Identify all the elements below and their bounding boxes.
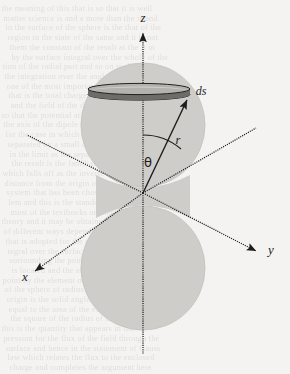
z-axis-label: z [139, 10, 145, 25]
ring-upper-rim [88, 83, 190, 94]
y-axis-label: y [266, 242, 274, 257]
surface-element-label: ds [196, 84, 207, 98]
surface-element-ring [88, 83, 190, 100]
figure-root: the meaning of this that is so that it i… [0, 0, 290, 374]
x-axis-label: x [21, 269, 28, 284]
polar-angle-label: θ [144, 155, 152, 170]
radius-label: r [176, 133, 181, 147]
spherical-coordinates-diagram: z x y r θ ds [0, 0, 290, 374]
